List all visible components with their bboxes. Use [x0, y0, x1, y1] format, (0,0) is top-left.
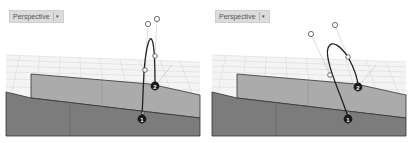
viewport-title-button[interactable]: Perspective ▾	[9, 10, 64, 23]
viewport-title: Perspective	[219, 11, 259, 22]
marker-1: 1	[344, 115, 353, 124]
viewport-perspective-left[interactable]: 2 1 Perspective ▾	[0, 0, 205, 143]
marker-2: 2	[354, 83, 363, 92]
chevron-down-icon[interactable]: ▾	[259, 12, 267, 21]
marker-2: 2	[151, 82, 160, 91]
viewport-title: Perspective	[13, 11, 53, 22]
viewport-perspective-right[interactable]: 2 1 Perspective ▾	[206, 0, 411, 143]
chevron-down-icon[interactable]: ▾	[53, 12, 61, 21]
marker-1: 1	[138, 115, 147, 124]
viewport-title-button[interactable]: Perspective ▾	[215, 10, 270, 23]
